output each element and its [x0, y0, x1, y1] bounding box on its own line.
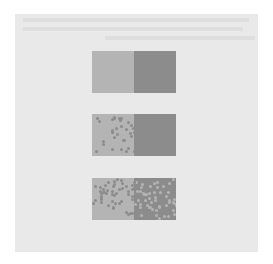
dither-dot — [105, 192, 108, 195]
dither-dot — [111, 193, 114, 196]
dither-dot — [172, 209, 175, 212]
dither-dot — [167, 215, 170, 218]
dither-dot — [137, 199, 140, 202]
show-through-text-line — [23, 18, 249, 22]
dither-dot — [133, 181, 136, 184]
dither-dot — [118, 188, 121, 191]
dither-dot — [114, 202, 117, 205]
dither-dot — [131, 198, 134, 201]
dither-dot — [118, 202, 121, 205]
dither-dot — [130, 124, 133, 127]
dither-dot — [172, 178, 175, 181]
dither-dot — [96, 117, 99, 120]
dither-dot — [94, 185, 97, 188]
dither-dot — [140, 214, 143, 217]
dither-dot — [104, 184, 107, 187]
dither-dot — [155, 209, 158, 212]
dither-dot — [163, 215, 166, 218]
dither-dot — [125, 185, 128, 188]
dark-region — [134, 51, 176, 93]
dither-dot — [146, 204, 149, 207]
dither-dot — [156, 186, 159, 189]
dark-region — [134, 114, 176, 156]
dither-dot — [139, 190, 142, 193]
dither-dot — [149, 185, 152, 188]
dither-dot — [116, 178, 119, 181]
dither-dot — [153, 191, 156, 194]
dither-dot — [102, 143, 105, 146]
dither-dot — [150, 201, 153, 204]
dither-dot — [113, 136, 116, 139]
show-through-text-line — [105, 36, 255, 40]
dither-dot — [127, 121, 130, 124]
dither-dot — [158, 205, 161, 208]
dither-dot — [125, 128, 128, 131]
dither-dot — [144, 199, 147, 202]
dither-dot — [165, 195, 168, 198]
dither-dot — [158, 217, 161, 220]
dither-dot — [133, 150, 136, 153]
dither-dot — [107, 181, 110, 184]
dither-dot — [165, 204, 168, 207]
dither-dot — [121, 187, 124, 190]
dither-dot — [116, 133, 119, 136]
dither-dot — [131, 184, 134, 187]
dither-dot — [111, 190, 114, 193]
dither-dot — [127, 193, 130, 196]
dither-dot — [120, 148, 123, 151]
dither-dot — [113, 117, 116, 120]
dither-dot — [134, 139, 137, 142]
dither-dot — [106, 189, 109, 192]
dither-dot — [132, 127, 135, 130]
dither-dot — [142, 192, 145, 195]
show-through-text-line — [23, 27, 243, 31]
dither-dot — [162, 185, 165, 188]
dither-dot — [173, 213, 176, 216]
dither-dot — [111, 129, 114, 132]
dither-dot — [115, 127, 118, 130]
dither-dot — [100, 201, 103, 204]
swatch-full-dither — [92, 178, 176, 220]
dither-dot — [156, 181, 159, 184]
dither-dot — [131, 188, 134, 191]
dither-dot — [122, 139, 125, 142]
swatch-partial-dither — [92, 114, 176, 156]
swatch-hard-edge — [92, 51, 176, 93]
dither-dot — [121, 182, 124, 185]
dither-dot — [134, 203, 137, 206]
dither-dot — [172, 201, 175, 204]
dither-dot — [131, 212, 134, 215]
dither-dot — [125, 150, 128, 153]
dither-dot — [151, 208, 154, 211]
page — [15, 14, 258, 252]
dither-dot — [130, 135, 133, 138]
dither-dot — [148, 197, 151, 200]
dither-dot — [168, 182, 171, 185]
light-region — [92, 51, 134, 93]
dither-dot — [115, 192, 118, 195]
